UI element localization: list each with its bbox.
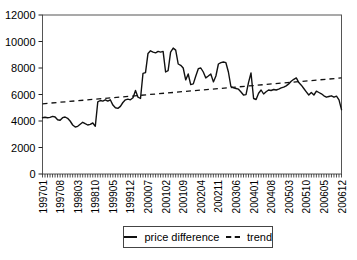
x-tick-label: 200306: [231, 180, 242, 214]
x-tick-label: 200408: [266, 180, 277, 214]
x-tick-label: 200612: [337, 180, 348, 214]
x-tick-label: 200007: [143, 180, 154, 214]
x-tick-label: 200211: [213, 180, 224, 213]
price-difference-line-sample: [124, 236, 137, 238]
y-tick-label: 0: [29, 168, 35, 180]
y-axis: 020004000600080001000012000: [5, 9, 43, 180]
x-axis: 1997011997081998031998101999051999122000…: [38, 174, 348, 213]
x-tick-label: 200605: [319, 180, 330, 214]
x-tick-label: 200401: [249, 180, 260, 214]
y-tick-label: 8000: [11, 62, 35, 74]
x-tick-label: 200109: [178, 180, 189, 214]
legend-label-trend: trend: [247, 232, 272, 243]
y-tick-label: 4000: [11, 115, 35, 127]
price-difference-line: [43, 48, 342, 127]
legend-label-price-difference: price difference: [144, 232, 219, 243]
y-tick-label: 10000: [5, 36, 36, 48]
x-tick-label: 199701: [38, 180, 49, 214]
trend-line: [43, 78, 342, 104]
x-tick-label: 200510: [301, 180, 312, 214]
plot-border: [43, 15, 342, 174]
x-tick-label: 199912: [125, 180, 136, 214]
y-tick-label: 6000: [11, 89, 35, 101]
x-tick-label: 200204: [196, 180, 207, 214]
chart-legend: price difference trend: [123, 226, 273, 248]
x-tick-label: 200503: [284, 180, 295, 214]
chart-figure: 0200040006000800010000120001997011997081…: [0, 0, 357, 260]
x-tick-label: 199708: [55, 180, 66, 214]
y-tick-label: 12000: [5, 9, 36, 21]
x-tick-label: 199905: [108, 180, 119, 214]
x-tick-label: 199803: [73, 180, 84, 214]
x-tick-label: 200102: [161, 180, 172, 214]
trend-line-sample: [226, 236, 239, 238]
x-tick-label: 199810: [90, 180, 101, 214]
line-chart-plot: 0200040006000800010000120001997011997081…: [0, 0, 357, 260]
y-tick-label: 2000: [11, 142, 35, 154]
